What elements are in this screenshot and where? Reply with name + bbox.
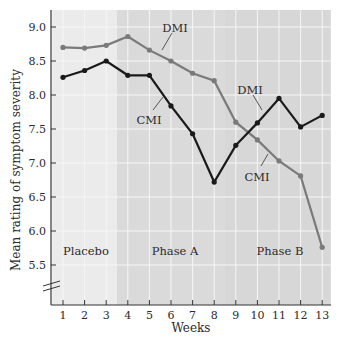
data-point bbox=[233, 143, 238, 148]
data-point bbox=[82, 45, 87, 50]
y-tick-label: 6.5 bbox=[29, 191, 47, 204]
x-tick-label: 1 bbox=[60, 309, 67, 322]
data-point bbox=[104, 58, 109, 63]
line-chart: DMICMIDMICMI PlaceboPhase APhase B 9.08.… bbox=[0, 0, 337, 344]
data-point bbox=[320, 245, 325, 250]
data-point bbox=[147, 48, 152, 53]
data-point bbox=[168, 58, 173, 63]
data-point bbox=[320, 113, 325, 118]
x-tick-label: 4 bbox=[124, 309, 131, 322]
x-tick-label: 5 bbox=[146, 309, 153, 322]
data-point bbox=[233, 120, 238, 125]
data-point bbox=[212, 179, 217, 184]
data-point bbox=[125, 34, 130, 39]
data-point bbox=[60, 75, 65, 80]
data-point bbox=[104, 43, 109, 48]
phase-backgrounds bbox=[52, 10, 331, 305]
y-tick-label: 8.0 bbox=[29, 89, 47, 102]
y-tick-label: 7.5 bbox=[29, 123, 47, 136]
phase-label-phase-a: Phase A bbox=[152, 244, 199, 258]
y-tick-label: 9.0 bbox=[29, 21, 47, 34]
data-point bbox=[168, 103, 173, 108]
x-tick-label: 11 bbox=[272, 309, 286, 322]
data-point bbox=[298, 173, 303, 178]
series-label-dmi: DMI bbox=[162, 21, 188, 35]
phase-labels: PlaceboPhase APhase B bbox=[63, 244, 303, 258]
data-point bbox=[125, 73, 130, 78]
x-tick-label: 2 bbox=[81, 309, 88, 322]
data-point bbox=[82, 68, 87, 73]
y-tick-label: 6.0 bbox=[29, 225, 47, 238]
y-axis-title: Mean rating of symptom severity bbox=[9, 69, 23, 271]
x-tick-label: 13 bbox=[315, 309, 329, 322]
data-point bbox=[60, 45, 65, 50]
phase-region-2 bbox=[225, 10, 331, 305]
data-point bbox=[276, 158, 281, 163]
data-point bbox=[190, 71, 195, 76]
data-point bbox=[190, 131, 195, 136]
data-point bbox=[298, 124, 303, 129]
x-tick-label: 12 bbox=[294, 309, 308, 322]
x-tick-label: 3 bbox=[103, 309, 110, 322]
x-tick-label: 10 bbox=[250, 309, 264, 322]
data-point bbox=[212, 78, 217, 83]
x-tick-label: 9 bbox=[232, 309, 239, 322]
series-label-cmi: CMI bbox=[244, 170, 269, 184]
x-axis-title: Weeks bbox=[172, 321, 211, 335]
series-label-dmi: DMI bbox=[237, 83, 263, 97]
phase-label-phase-b: Phase B bbox=[257, 244, 304, 258]
phase-label-placebo: Placebo bbox=[63, 244, 109, 258]
series-label-cmi: CMI bbox=[136, 113, 161, 127]
y-tick-label: 5.5 bbox=[29, 259, 47, 272]
data-point bbox=[255, 120, 260, 125]
x-tick-label: 8 bbox=[211, 309, 218, 322]
y-tick-label: 8.5 bbox=[29, 55, 47, 68]
data-point bbox=[255, 137, 260, 142]
data-point bbox=[276, 96, 281, 101]
y-tick-label: 7.0 bbox=[29, 157, 47, 170]
data-point bbox=[147, 73, 152, 78]
